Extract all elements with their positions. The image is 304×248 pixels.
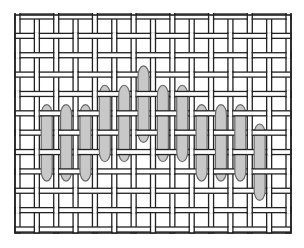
weave-crossing bbox=[16, 168, 20, 175]
weave-crossing bbox=[54, 52, 58, 59]
weave-crossing bbox=[35, 187, 39, 194]
weave-crossing bbox=[93, 90, 97, 97]
strand-over-element bbox=[195, 150, 209, 155]
weave-crossing bbox=[112, 226, 116, 233]
weave-crossing bbox=[229, 149, 233, 156]
weave-crossing bbox=[54, 13, 58, 20]
weave-crossing bbox=[16, 52, 20, 59]
weave-crossing bbox=[287, 168, 291, 175]
weave-crossing bbox=[248, 168, 252, 175]
weave-crossing bbox=[16, 207, 20, 214]
strand-over-element bbox=[59, 130, 73, 135]
weave-crossing bbox=[16, 129, 20, 136]
weave-crossing bbox=[209, 13, 213, 20]
strand-over-element bbox=[214, 130, 228, 135]
strand-over-element bbox=[40, 111, 54, 116]
weave-crossing bbox=[267, 187, 271, 194]
weave-crossing bbox=[267, 32, 271, 39]
weave-crossing bbox=[74, 71, 78, 78]
weave-crossing bbox=[190, 110, 194, 117]
weave-crossing bbox=[93, 52, 97, 59]
vertical-strand bbox=[151, 15, 156, 233]
vertical-strand bbox=[92, 15, 97, 233]
weave-crossing bbox=[151, 187, 155, 194]
strand-over-element bbox=[253, 169, 267, 174]
strand-over-element bbox=[78, 111, 92, 116]
weave-crossing bbox=[209, 52, 213, 59]
strand-over-element bbox=[253, 130, 267, 135]
vertical-strand bbox=[209, 15, 214, 233]
strand-over-element bbox=[156, 150, 170, 155]
weave-crossing bbox=[209, 90, 213, 97]
weave-crossing bbox=[229, 110, 233, 117]
weave-crossing bbox=[93, 207, 97, 214]
weave-crossing bbox=[248, 52, 252, 59]
weave-crossing bbox=[209, 129, 213, 136]
strand-over-element bbox=[175, 91, 189, 96]
weave-crossing bbox=[54, 90, 58, 97]
vertical-strand bbox=[189, 15, 194, 233]
vertical-strand bbox=[267, 15, 272, 233]
weave-crossing bbox=[112, 110, 116, 117]
weave-crossing bbox=[54, 207, 58, 214]
weave-crossing bbox=[229, 226, 233, 233]
vertical-strand bbox=[73, 15, 78, 233]
weave-crossing bbox=[93, 129, 97, 136]
woven-mesh-diagram bbox=[0, 0, 304, 248]
weave-crossing bbox=[287, 13, 291, 20]
weave-crossing bbox=[54, 168, 58, 175]
weave-crossing bbox=[35, 226, 39, 233]
weave-crossing bbox=[171, 168, 175, 175]
weave-crossing bbox=[229, 187, 233, 194]
weave-crossing bbox=[248, 13, 252, 20]
strand-over-element bbox=[59, 169, 73, 174]
strand-over-element bbox=[40, 150, 54, 155]
strand-over-element bbox=[137, 130, 151, 135]
weave-crossing bbox=[74, 32, 78, 39]
weave-crossing bbox=[151, 110, 155, 117]
diagram-canvas bbox=[0, 0, 304, 248]
strand-over-element bbox=[117, 150, 131, 155]
weave-crossing bbox=[112, 187, 116, 194]
weave-crossing bbox=[171, 90, 175, 97]
weave-crossing bbox=[132, 129, 136, 136]
weave-crossing bbox=[171, 207, 175, 214]
vertical-strand bbox=[170, 15, 175, 233]
weave-crossing bbox=[267, 149, 271, 156]
weave-crossing bbox=[93, 13, 97, 20]
weave-crossing bbox=[54, 129, 58, 136]
weave-crossing bbox=[151, 32, 155, 39]
weave-crossing bbox=[190, 226, 194, 233]
weave-crossing bbox=[35, 71, 39, 78]
weave-crossing bbox=[248, 90, 252, 97]
weave-crossing bbox=[151, 149, 155, 156]
weave-crossing bbox=[132, 90, 136, 97]
weave-crossing bbox=[151, 71, 155, 78]
weave-crossing bbox=[35, 149, 39, 156]
weave-crossing bbox=[74, 226, 78, 233]
weave-crossing bbox=[287, 207, 291, 214]
weave-crossing bbox=[209, 207, 213, 214]
strand-over-element bbox=[233, 150, 247, 155]
weave-crossing bbox=[74, 149, 78, 156]
vertical-strand bbox=[228, 15, 233, 233]
mesh-under-layer bbox=[15, 13, 291, 233]
vertical-strand bbox=[112, 15, 117, 233]
weave-crossing bbox=[132, 168, 136, 175]
vertical-strand bbox=[247, 15, 252, 233]
weave-crossing bbox=[248, 129, 252, 136]
weave-crossing bbox=[171, 129, 175, 136]
strand-over-element bbox=[98, 130, 112, 135]
weave-crossing bbox=[112, 149, 116, 156]
weave-crossing bbox=[287, 90, 291, 97]
vertical-strand bbox=[54, 15, 59, 233]
strand-over-element bbox=[117, 111, 131, 116]
weave-crossing bbox=[35, 110, 39, 117]
weave-crossing bbox=[16, 90, 20, 97]
weave-crossing bbox=[112, 32, 116, 39]
weave-crossing bbox=[267, 71, 271, 78]
weave-crossing bbox=[190, 71, 194, 78]
weave-crossing bbox=[229, 71, 233, 78]
weave-crossing bbox=[190, 32, 194, 39]
strand-over-element bbox=[214, 169, 228, 174]
